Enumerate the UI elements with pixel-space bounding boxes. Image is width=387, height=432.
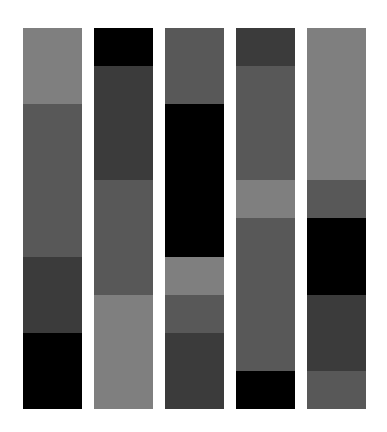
block-light — [236, 180, 295, 218]
block-black — [165, 104, 224, 256]
column-3 — [165, 28, 224, 409]
block-dark — [23, 257, 82, 333]
block-dark — [94, 66, 153, 180]
block-medium — [165, 295, 224, 333]
block-medium — [236, 66, 295, 180]
block-light — [165, 257, 224, 295]
block-light — [94, 295, 153, 409]
block-light — [307, 28, 366, 180]
block-medium — [236, 218, 295, 370]
column-1 — [23, 28, 82, 409]
block-dark — [165, 333, 224, 409]
block-black — [236, 371, 295, 409]
block-black — [94, 28, 153, 66]
block-medium — [23, 104, 82, 256]
block-dark — [307, 295, 366, 371]
column-4 — [236, 28, 295, 409]
block-medium — [307, 180, 366, 218]
block-medium — [307, 371, 366, 409]
block-medium — [165, 28, 224, 104]
block-dark — [236, 28, 295, 66]
column-2 — [94, 28, 153, 409]
block-black — [307, 218, 366, 294]
block-medium — [94, 180, 153, 294]
column-5 — [307, 28, 366, 409]
block-black — [23, 333, 82, 409]
block-light — [23, 28, 82, 104]
